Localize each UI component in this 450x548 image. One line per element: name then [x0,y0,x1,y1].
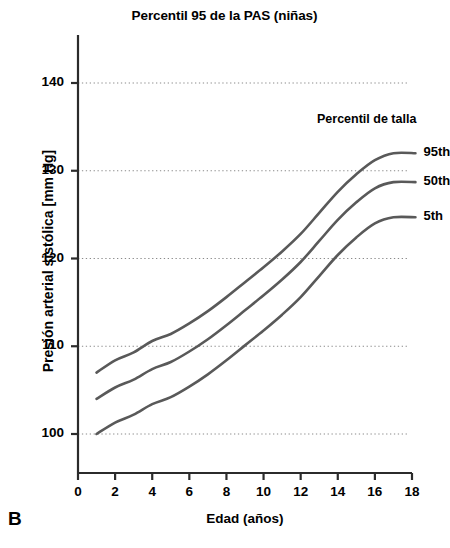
page-bleed-text [0,542,449,548]
series-line-50th [97,182,416,399]
series-line-5th [97,217,416,434]
series-line-95th [97,153,416,373]
